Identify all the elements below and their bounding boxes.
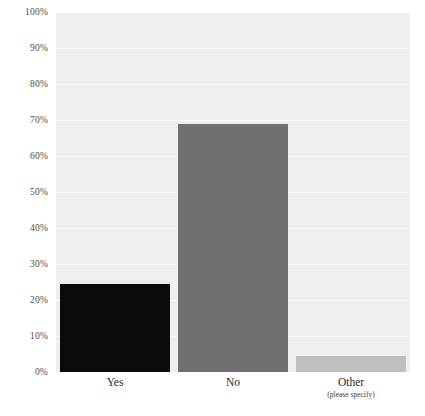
y-tick-label: 40% xyxy=(0,223,48,233)
y-tick-label: 20% xyxy=(0,295,48,305)
x-category-other: Other (please specify) xyxy=(292,374,410,400)
bar-chart: 100% 90% 80% 70% 60% 50% 40% 30% 20% 10%… xyxy=(0,0,425,416)
y-tick-label: 70% xyxy=(0,115,48,125)
bar-other[interactable] xyxy=(296,356,406,372)
plot-area xyxy=(56,12,410,372)
y-axis: 100% 90% 80% 70% 60% 50% 40% 30% 20% 10%… xyxy=(0,0,52,416)
y-tick-label: 80% xyxy=(0,79,48,89)
y-tick-label: 0% xyxy=(0,367,48,377)
y-tick-label: 10% xyxy=(0,331,48,341)
x-category-no: No xyxy=(174,374,292,390)
x-axis: Yes No Other (please specify) xyxy=(56,374,410,416)
y-tick-label: 100% xyxy=(0,7,48,17)
y-tick-label: 50% xyxy=(0,187,48,197)
x-category-sublabel: (please specify) xyxy=(292,390,410,400)
x-category-yes: Yes xyxy=(56,374,174,390)
x-category-label: No xyxy=(174,374,292,390)
x-category-label: Yes xyxy=(56,374,174,390)
y-tick-label: 90% xyxy=(0,43,48,53)
x-category-label: Other xyxy=(292,374,410,390)
bar-no[interactable] xyxy=(178,124,288,372)
bars-group xyxy=(56,12,410,372)
y-tick-label: 30% xyxy=(0,259,48,269)
bar-yes[interactable] xyxy=(60,284,170,372)
y-tick-label: 60% xyxy=(0,151,48,161)
